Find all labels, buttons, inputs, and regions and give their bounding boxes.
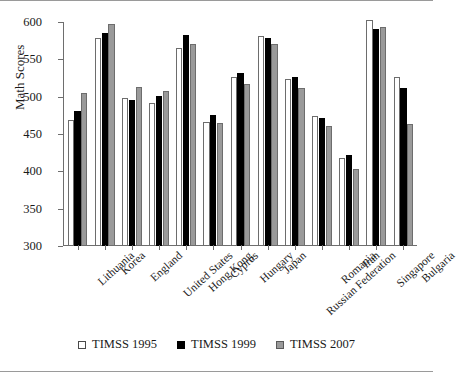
- open-square-icon: [78, 341, 86, 349]
- bar-group: [281, 22, 308, 246]
- bar-group: [200, 22, 227, 246]
- bar-group: [64, 22, 91, 246]
- bar-s2007: [407, 124, 413, 246]
- bar-s2007: [136, 87, 142, 246]
- bar-s1999: [346, 155, 352, 246]
- bar-s1999: [183, 35, 189, 246]
- plot-area: Math Scores 300350400450500550600: [63, 22, 417, 246]
- legend-label: TIMSS 2007: [290, 337, 355, 352]
- legend-label: TIMSS 1999: [191, 337, 256, 352]
- bar-s2007: [353, 169, 359, 246]
- bar-s1999: [237, 73, 243, 246]
- legend-item[interactable]: TIMSS 1999: [177, 337, 256, 352]
- y-axis-tick-label: 400: [8, 165, 42, 178]
- y-axis-tick: [58, 97, 63, 98]
- bar-s1999: [210, 115, 216, 246]
- bar-s1999: [292, 77, 298, 246]
- bar-s1999: [102, 33, 108, 246]
- y-axis-tick-label: 350: [8, 203, 42, 216]
- bar-s1999: [373, 29, 379, 246]
- bar-s1995: [149, 103, 155, 246]
- y-axis-tick-label: 550: [8, 53, 42, 66]
- bar-s1999: [74, 111, 80, 246]
- bar-s1995: [394, 77, 400, 246]
- bar-group: [145, 22, 172, 246]
- bar-s1995: [203, 122, 209, 246]
- bar-s1999: [319, 118, 325, 246]
- legend-label: TIMSS 1995: [92, 337, 157, 352]
- bar-group: [336, 22, 363, 246]
- y-axis-tick: [58, 246, 63, 247]
- y-axis-tick-label: 450: [8, 128, 42, 141]
- bar-s1995: [176, 48, 182, 246]
- y-axis-tick-label: 500: [8, 91, 42, 104]
- x-axis-labels: LithuaniaKoreaEnglandUnited StatesHong K…: [63, 249, 423, 329]
- bar-s1995: [285, 79, 291, 246]
- y-axis-tick: [58, 22, 63, 23]
- filled-gray-square-icon: [276, 341, 284, 349]
- x-axis-label: England: [148, 249, 185, 284]
- bar-group: [118, 22, 145, 246]
- bar-s1995: [312, 116, 318, 246]
- bar-s2007: [163, 91, 169, 246]
- bar-s2007: [81, 93, 87, 246]
- bar-s1999: [400, 88, 406, 246]
- bar-s1999: [265, 38, 271, 246]
- y-axis-tick: [58, 209, 63, 210]
- bar-group: [363, 22, 390, 246]
- bar-s2007: [244, 84, 250, 246]
- chart-legend: TIMSS 1995TIMSS 1999TIMSS 2007: [0, 337, 433, 352]
- bar-s1995: [231, 77, 237, 246]
- bar-s2007: [217, 123, 223, 246]
- bar-group: [227, 22, 254, 246]
- filled-black-square-icon: [177, 341, 185, 349]
- bar-s1995: [95, 38, 101, 246]
- bar-group: [254, 22, 281, 246]
- bar-s1995: [122, 98, 128, 246]
- bar-s1995: [68, 120, 74, 246]
- bar-s1999: [129, 100, 135, 246]
- bar-series-container: [64, 22, 417, 246]
- bar-s2007: [108, 24, 114, 246]
- bar-s1999: [156, 96, 162, 246]
- y-axis-tick: [58, 59, 63, 60]
- bar-s1995: [339, 158, 345, 246]
- legend-item[interactable]: TIMSS 2007: [276, 337, 355, 352]
- y-axis-tick: [58, 171, 63, 172]
- bar-s2007: [298, 88, 304, 246]
- bar-s2007: [326, 126, 332, 246]
- bar-s1995: [258, 36, 264, 246]
- bar-group: [308, 22, 335, 246]
- y-axis-tick-label: 300: [8, 240, 42, 253]
- legend-item[interactable]: TIMSS 1995: [78, 337, 157, 352]
- y-axis-tick: [58, 134, 63, 135]
- y-axis-tick-label: 600: [8, 16, 42, 29]
- bar-s2007: [271, 44, 277, 246]
- bar-s1995: [366, 20, 372, 246]
- bar-group: [91, 22, 118, 246]
- bar-group: [390, 22, 417, 246]
- bar-s2007: [190, 44, 196, 246]
- bar-s2007: [380, 27, 386, 246]
- bar-group: [173, 22, 200, 246]
